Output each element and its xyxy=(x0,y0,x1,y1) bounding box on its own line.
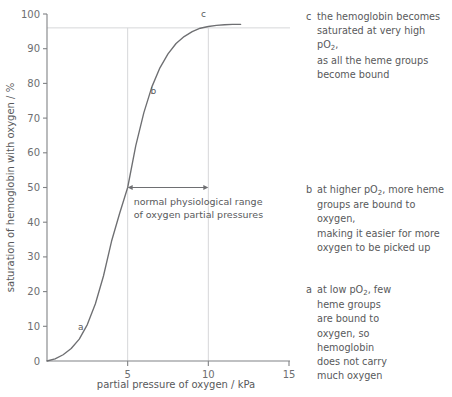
y-tick-label: 0 xyxy=(34,356,40,367)
annotation-line: at low pO2, few xyxy=(317,283,406,298)
annotation-line: at higher pO2, more heme xyxy=(317,183,448,198)
annotation-line: saturated at very high pO2, xyxy=(317,24,448,53)
annotation-line: the hemoglobin becomes xyxy=(317,10,448,24)
annotation-line: oxygen, so xyxy=(317,327,406,341)
subscript: 2 xyxy=(331,44,335,52)
y-tick-label: 100 xyxy=(21,9,40,20)
annotation-line: heme groups xyxy=(317,298,406,312)
subscript: 2 xyxy=(363,289,367,297)
y-tick-label: 50 xyxy=(27,182,40,193)
range-arrow-head-right xyxy=(203,185,208,190)
annotation-line: are bound to xyxy=(317,312,406,326)
curve-label-b: b xyxy=(151,86,157,96)
annotation-line: as all the heme groups xyxy=(317,54,448,68)
range-note-line: of oxygen partial pressures xyxy=(134,209,263,220)
annotation-a-text: at low pO2, fewheme groupsare bound toox… xyxy=(317,283,406,383)
dissociation-curve xyxy=(47,24,241,361)
annotation-line: making it easier for more xyxy=(317,227,448,241)
annotation-line: groups are bound to oxygen, xyxy=(317,198,448,226)
y-axis-title: saturation of hemoglobin with oxygen / % xyxy=(5,83,16,292)
x-tick-label: 15 xyxy=(283,369,296,380)
annotation-line: does not carry xyxy=(317,355,406,369)
y-tick-label: 90 xyxy=(27,43,40,54)
annotation-b-marker: b xyxy=(306,183,312,197)
annotation-line: oxygen to be picked up xyxy=(317,241,448,255)
annotation-a-marker: a xyxy=(306,283,312,297)
y-tick-label: 20 xyxy=(27,286,40,297)
annotation-line: become bound xyxy=(317,68,448,82)
y-tick-label: 80 xyxy=(27,78,40,89)
x-axis-title: partial pressure of oxygen / kPa xyxy=(97,379,255,390)
annotation-c-text: the hemoglobin becomessaturated at very … xyxy=(317,10,448,82)
annotation-b-text: at higher pO2, more hemegroups are bound… xyxy=(317,183,448,255)
annotation-c: c the hemoglobin becomessaturated at ver… xyxy=(306,10,448,82)
annotation-b: b at higher pO2, more hemegroups are bou… xyxy=(306,183,448,255)
annotation-a: a at low pO2, fewheme groupsare bound to… xyxy=(306,283,406,383)
curve-label-c: c xyxy=(201,9,206,19)
curve-label-a: a xyxy=(78,322,84,332)
annotation-c-marker: c xyxy=(306,10,311,24)
range-note-line: normal physiological range xyxy=(134,196,263,207)
y-tick-label: 10 xyxy=(27,321,40,332)
y-tick-label: 40 xyxy=(27,217,40,228)
y-tick-label: 70 xyxy=(27,113,40,124)
oxygen-dissociation-figure: 010203040506070809010051015partial press… xyxy=(0,0,452,397)
y-tick-label: 30 xyxy=(27,251,40,262)
annotation-line: much oxygen xyxy=(317,369,406,383)
annotation-line: hemoglobin xyxy=(317,341,406,355)
y-tick-label: 60 xyxy=(27,147,40,158)
subscript: 2 xyxy=(378,189,382,197)
